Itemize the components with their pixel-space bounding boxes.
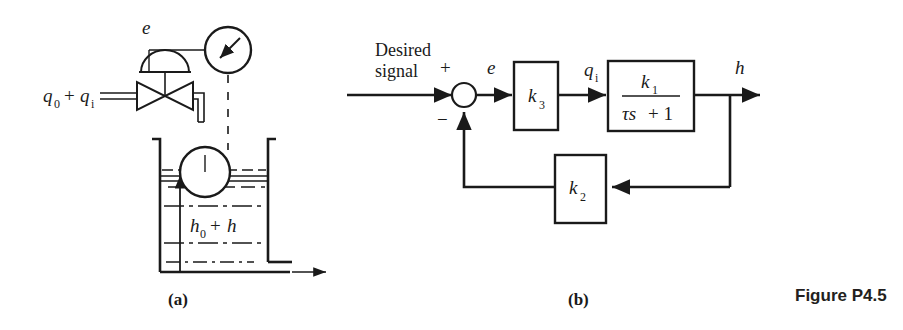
input-label-line-1: Desired: [375, 40, 431, 60]
inflow-label: q 0 + q i: [43, 85, 95, 111]
inflow-pipe: [100, 93, 137, 99]
plant-numerator-k-symbol: k: [641, 71, 650, 92]
figure-p4-5: q 0 + q i: [0, 0, 903, 330]
schematic-part-a: q 0 + q i: [43, 17, 326, 309]
flow-signal-label: q i: [584, 59, 599, 85]
inflow-qi-subscript-i: i: [91, 97, 95, 111]
diaphragm-actuator: [139, 50, 191, 72]
error-gauge: [205, 27, 251, 73]
error-signal-label-b: e: [487, 57, 495, 78]
summing-junction: [452, 83, 476, 107]
input-label-line-2: signal: [375, 61, 418, 81]
valve-outlet-pipe: [193, 93, 204, 122]
block-diagram-part-b: Desired signal + − e k 3 q i: [347, 40, 760, 309]
plant-numerator-subscript: 1: [652, 83, 658, 97]
gain-block-k3: k 3: [514, 62, 558, 130]
height-h-subscript-zero: 0: [200, 227, 206, 241]
plant-denominator-tau-s: τs: [622, 103, 636, 124]
feedback-gain-block-k2: k 2: [555, 155, 606, 223]
height-plus-operator: +: [210, 215, 221, 236]
flow-signal-q-symbol: q: [584, 59, 594, 80]
height-label: h 0 + h: [190, 215, 237, 241]
plant-block-k1-over-tau-s-plus-1: k 1 τs + 1: [608, 61, 694, 131]
inflow-qi-symbol: q: [80, 85, 90, 106]
gain-block-k3-subscript: 3: [539, 98, 545, 112]
flow-signal-q-subscript: i: [595, 71, 599, 85]
figure-caption: Figure P4.5: [795, 286, 887, 305]
part-b-label: (b): [568, 290, 589, 309]
plant-denominator-plus-one: + 1: [648, 103, 673, 124]
inflow-plus-operator: +: [64, 85, 75, 106]
feedback-gain-block-k2-subscript: 2: [580, 190, 586, 204]
feedback-gain-block-k2-label: k: [569, 177, 578, 198]
inflow-q-symbol: q: [43, 85, 53, 106]
figure-canvas: q 0 + q i: [0, 0, 903, 330]
summing-junction-minus-sign: −: [437, 109, 448, 130]
inflow-q-subscript-zero: 0: [54, 97, 60, 111]
float-ball: [180, 147, 230, 197]
output-signal-label: h: [735, 57, 745, 78]
summing-junction-plus-sign: +: [440, 57, 451, 78]
height-h-symbol-2: h: [227, 215, 237, 236]
error-signal-label-a: e: [142, 17, 150, 38]
height-h-symbol: h: [190, 215, 200, 236]
part-a-label: (a): [168, 290, 188, 309]
gain-block-k3-label: k: [528, 85, 537, 106]
